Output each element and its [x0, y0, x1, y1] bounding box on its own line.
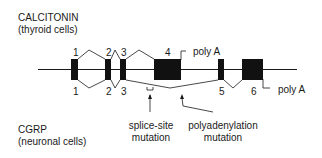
splice-site-mutation-label-line1: splice-site	[126, 120, 176, 132]
calcitonin-title: CALCITONIN	[18, 12, 78, 24]
bottom-exon-label-1: 1	[73, 87, 79, 97]
bottom-exon-label-3: 3	[121, 87, 127, 97]
exon-4	[154, 59, 181, 80]
top-splice-3-4	[126, 50, 154, 59]
polyadenylation-mutation-label-line2: mutation	[186, 132, 260, 144]
cgrp-subtitle: (neuronal cells)	[18, 136, 86, 148]
top-polya-label: poly A	[193, 46, 220, 58]
bottom-polya-bracket	[263, 79, 270, 88]
top-polya-bracket	[181, 51, 186, 60]
splice-site-arrowhead	[148, 94, 152, 99]
top-splice-2-3	[111, 50, 120, 59]
exon-6	[242, 59, 263, 80]
cgrp-title: CGRP	[18, 124, 47, 136]
exon-2	[105, 59, 111, 80]
bottom-splice-2-3	[111, 80, 120, 88]
bottom-exon-label-6: 6	[251, 87, 257, 97]
polyadenylation-arrow-shaft	[182, 98, 213, 112]
bottom-polya-label: poly A	[278, 84, 305, 96]
polyadenylation-mutation-label-line1: polyadenylation	[186, 120, 260, 132]
top-exon-label-1: 1	[73, 48, 79, 58]
bottom-splice-1-2	[78, 80, 105, 88]
polyadenylation-arrowhead	[180, 94, 184, 99]
top-splice-1-2	[78, 50, 105, 59]
exon-1	[71, 59, 78, 80]
bottom-splice-3-5	[126, 80, 218, 88]
splice-site-marker	[147, 87, 153, 90]
bottom-splice-5-6	[224, 80, 242, 88]
top-exon-label-4: 4	[165, 48, 171, 58]
calcitonin-subtitle: (thyroid cells)	[18, 24, 77, 36]
bottom-exon-label-2: 2	[106, 87, 112, 97]
bottom-exon-label-5: 5	[219, 87, 225, 97]
exon-5	[218, 59, 224, 80]
splice-site-mutation-label-line2: mutation	[126, 132, 176, 144]
exon-3	[120, 59, 126, 80]
top-exon-label-3: 3	[121, 48, 127, 58]
top-exon-label-2: 2	[106, 48, 112, 58]
